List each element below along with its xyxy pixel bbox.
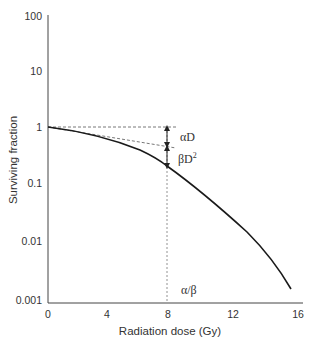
y-tick-100: 100 (24, 10, 42, 22)
survival-curve (48, 127, 291, 289)
y-tick-0.01: 0.01 (22, 235, 43, 247)
survival-chart: 100 10 1 0.1 0.01 0.001 0 4 8 12 16 Radi… (0, 0, 316, 343)
alpha-beta-label: α/β (181, 283, 197, 297)
x-tick-4: 4 (104, 308, 110, 320)
y-axis-label: Surviving fraction (7, 116, 19, 204)
x-axis-label: Radiation dose (Gy) (119, 325, 221, 337)
alpha-d-label: αD (180, 130, 195, 144)
x-tick-8: 8 (165, 308, 171, 320)
y-tick-0.001: 0.001 (16, 294, 42, 306)
beta-d2-label: βD2 (178, 151, 197, 166)
x-tick-16: 16 (292, 308, 304, 320)
y-tick-0.1: 0.1 (27, 177, 42, 189)
x-tick-0: 0 (45, 308, 51, 320)
y-tick-10: 10 (30, 65, 42, 77)
x-tick-12: 12 (227, 308, 239, 320)
y-tick-1: 1 (36, 121, 42, 133)
